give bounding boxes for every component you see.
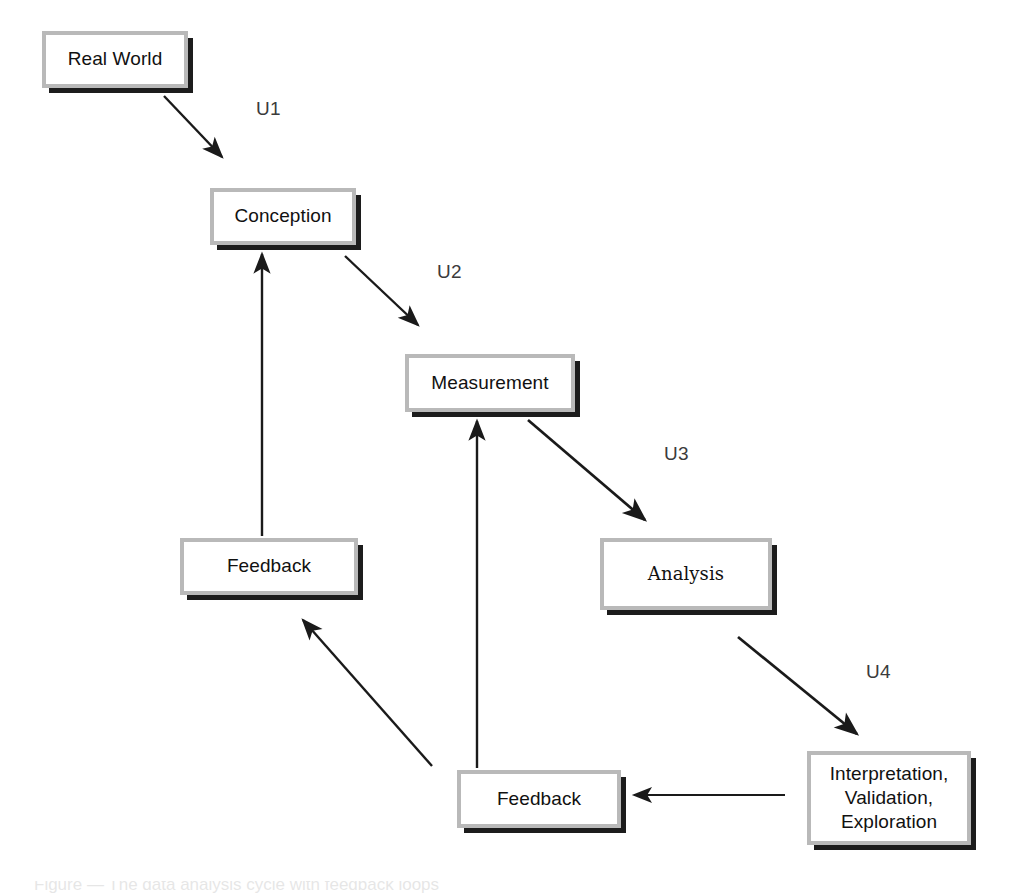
node-conception[interactable]: Conception: [210, 188, 356, 245]
edge-label-u4: U4: [866, 661, 891, 683]
edge-feedback-to-feedback-left: [303, 620, 432, 766]
node-feedback-left-label: Feedback: [221, 554, 317, 578]
node-conception-label: Conception: [228, 204, 337, 228]
node-real-world-label: Real World: [62, 47, 169, 71]
node-interpretation-label: Interpretation, Validation, Exploration: [824, 762, 955, 835]
node-analysis-label: Analysis: [642, 562, 730, 585]
node-feedback-bottom-label: Feedback: [491, 787, 587, 811]
diagram-canvas: Real World Conception Measurement Analys…: [0, 0, 1009, 895]
edge-u3: [528, 420, 645, 520]
edge-label-u2: U2: [437, 261, 462, 283]
edge-label-u3: U3: [664, 443, 689, 465]
node-analysis[interactable]: Analysis: [600, 538, 772, 610]
node-measurement-label: Measurement: [425, 371, 554, 395]
edge-u2: [345, 256, 418, 325]
node-feedback-bottom[interactable]: Feedback: [457, 770, 621, 828]
cut-off-caption: Figure — The data analysis cycle with fe…: [34, 881, 934, 895]
node-interpretation-validation-exploration[interactable]: Interpretation, Validation, Exploration: [807, 751, 971, 845]
edge-label-u1: U1: [256, 98, 281, 120]
edge-u1: [164, 96, 222, 157]
node-real-world[interactable]: Real World: [42, 31, 188, 88]
node-feedback-left[interactable]: Feedback: [180, 538, 358, 595]
edge-u4: [738, 637, 857, 734]
node-measurement[interactable]: Measurement: [405, 354, 575, 412]
cut-off-caption-text: Figure — The data analysis cycle with fe…: [34, 881, 439, 894]
